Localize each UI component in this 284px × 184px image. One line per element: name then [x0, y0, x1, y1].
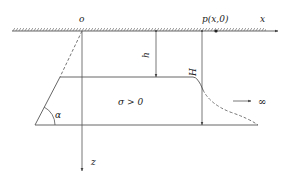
angle-alpha-label: α	[55, 110, 61, 120]
body-top-edge	[60, 77, 203, 90]
point-p-marker	[214, 29, 217, 32]
point-p-label: p(x,0)	[202, 14, 229, 24]
body-dashed-tail	[203, 90, 258, 125]
H-label: H	[188, 68, 198, 77]
x-axis-label: x	[260, 14, 265, 24]
anomalous-body	[35, 77, 258, 125]
region-sigma-label: σ > 0	[118, 97, 143, 107]
origin-label: o	[79, 14, 85, 24]
geological-section-diagram: o p(x,0) x z α h H σ > 0 ∞	[0, 0, 284, 184]
infinity-label: ∞	[258, 96, 266, 107]
angle-alpha-arc	[44, 107, 55, 125]
z-axis-label: z	[90, 157, 96, 167]
h-label: h	[141, 52, 151, 58]
slope-extension-dashed	[60, 31, 82, 77]
ground-surface	[12, 28, 278, 31]
